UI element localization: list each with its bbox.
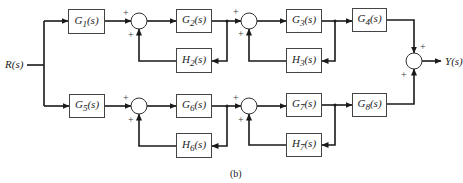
sum-junction-output — [406, 53, 422, 69]
sum-junction-5 — [131, 98, 147, 114]
block-g5: G5(s) — [69, 94, 105, 118]
plus-sign: + — [238, 29, 244, 39]
block-h6: H6(s) — [176, 133, 212, 158]
output-label-y: Y(s) — [445, 56, 463, 67]
block-g1: G1(s) — [68, 9, 105, 34]
block-g2: G2(s) — [176, 9, 212, 33]
figure-caption: (b) — [230, 168, 242, 179]
block-g8: G8(s) — [352, 93, 387, 117]
sum-junction-6 — [241, 98, 257, 114]
plus-sign: + — [128, 30, 134, 40]
block-g6: G6(s) — [176, 94, 212, 118]
sum-junction-1 — [131, 13, 147, 29]
plus-sign: + — [123, 93, 129, 103]
sum-junction-2 — [241, 13, 257, 29]
block-g7: G7(s) — [286, 93, 322, 117]
plus-sign: + — [238, 115, 244, 125]
block-h7: H7(s) — [286, 133, 322, 157]
plus-sign: + — [420, 42, 426, 52]
plus-sign: + — [128, 115, 134, 125]
plus-sign: + — [401, 70, 407, 80]
block-h2: H2(s) — [176, 48, 212, 73]
input-label-r: R(s) — [5, 59, 23, 70]
block-g4: G4(s) — [352, 8, 387, 32]
block-g3: G3(s) — [286, 9, 322, 33]
plus-sign: + — [233, 93, 239, 103]
block-h3: H3(s) — [286, 48, 322, 73]
plus-sign: + — [233, 7, 239, 17]
plus-sign: + — [123, 8, 129, 18]
